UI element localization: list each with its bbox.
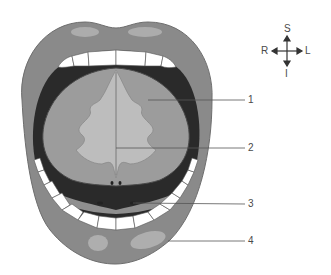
compass-right-label: R [261,46,268,56]
sublingual-caruncle-left [97,202,103,205]
label-3: 3 [248,199,254,209]
arrow-down-icon [284,61,290,66]
arrow-left-icon [272,48,277,54]
upper-lip-highlight-right [128,27,162,37]
arrow-up-icon [284,36,290,41]
mouth-diagram [0,0,331,275]
compass-superior-label: S [284,24,291,34]
arrow-right-icon [297,48,302,54]
compass-left-label: L [305,46,311,56]
label-4: 4 [248,236,254,246]
upper-lip-highlight-left [71,27,99,37]
orientation-compass [272,36,302,66]
compass-inferior-label: I [285,69,288,79]
lower-lip-highlight-left [88,235,108,251]
label-2: 2 [248,143,254,153]
label-1: 1 [248,95,254,105]
